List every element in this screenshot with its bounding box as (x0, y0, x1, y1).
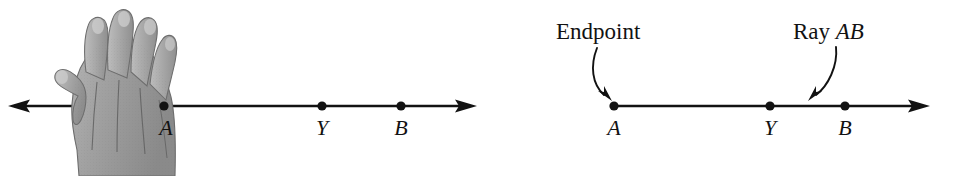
point-a-dot (159, 101, 168, 110)
left-label-b: B (394, 117, 407, 139)
ray-point-b-dot (840, 101, 849, 110)
hand-nail-4 (165, 37, 175, 51)
ray-ab-callout-label: Ray AB (793, 20, 864, 43)
hand-nail-1 (92, 18, 104, 34)
ray-point-a-dot (609, 101, 618, 110)
endpoint-arrow-head-icon (598, 86, 612, 101)
ray-point-y-dot (765, 101, 774, 110)
left-label-a: A (159, 117, 172, 139)
right-label-b: B (838, 117, 851, 139)
endpoint-arrow-curve (593, 48, 604, 95)
ray-ab-arrow-curve (816, 47, 836, 95)
geometry-figure: A Y B A Y B Endpoint Ray AB (0, 0, 954, 176)
ray-ab-callout-arrow (808, 47, 836, 101)
left-diagram (8, 10, 477, 176)
point-b-dot (396, 101, 405, 110)
hand-nail-3 (144, 19, 156, 35)
right-label-y: Y (764, 117, 776, 139)
endpoint-callout-label: Endpoint (556, 20, 640, 43)
hand-nail-thumb (56, 70, 68, 84)
point-y-dot (317, 101, 326, 110)
right-label-a: A (607, 117, 620, 139)
right-diagram (593, 47, 930, 113)
endpoint-callout-arrow (593, 48, 612, 101)
left-label-y: Y (316, 117, 328, 139)
ray-ab-callout-word: Ray (793, 19, 836, 44)
hand-nail-2 (118, 11, 130, 27)
ray-ab-arrow-head-icon (808, 86, 822, 101)
ray-ab-callout-segment: AB (836, 19, 864, 44)
hand-illustration (55, 10, 177, 176)
